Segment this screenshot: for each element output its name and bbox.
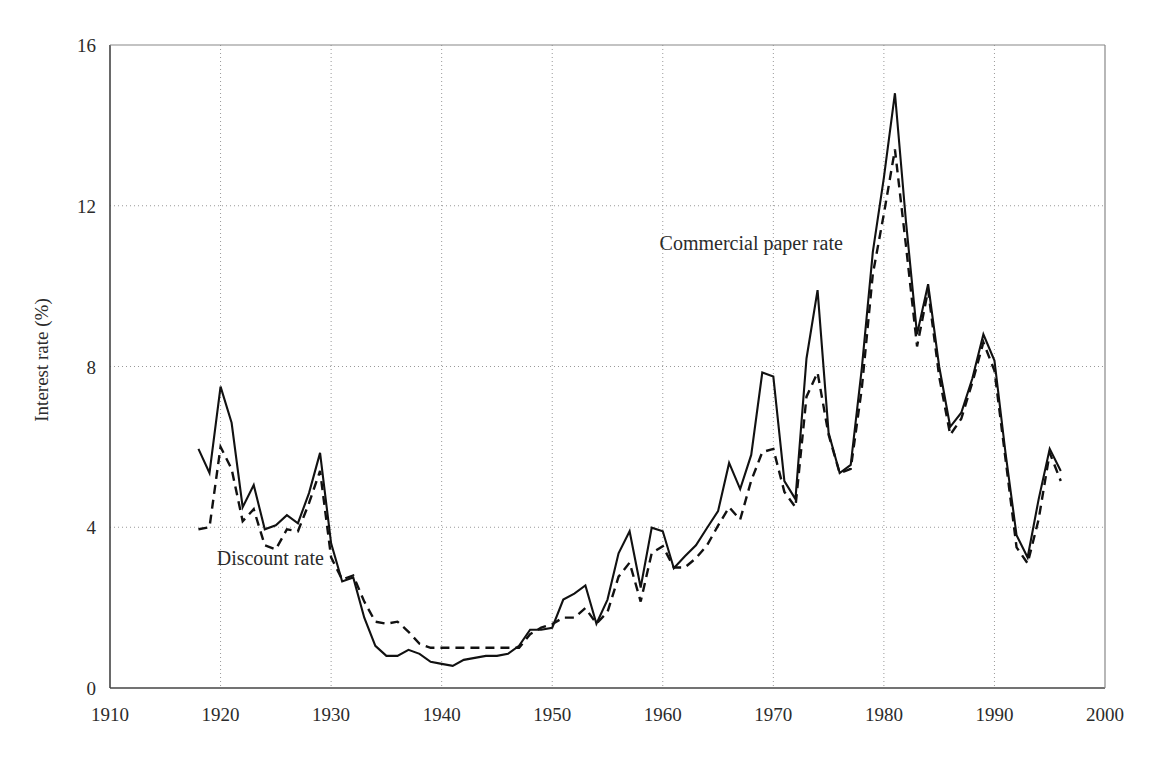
x-tick-label: 1960 — [644, 704, 682, 725]
series-line-discount-rate — [198, 149, 1060, 647]
y-tick-label: 8 — [87, 357, 97, 378]
gridlines — [110, 45, 1105, 688]
y-axis-title: Interest rate (%) — [31, 298, 53, 421]
x-tick-label: 1910 — [91, 704, 129, 725]
series-line-commercial-paper-rate — [198, 93, 1060, 666]
y-tick-label: 12 — [77, 196, 96, 217]
y-tick-label: 16 — [77, 35, 96, 56]
interest-rate-chart: 0481216 19101920193019401950196019701980… — [0, 0, 1172, 758]
y-tick-label: 4 — [87, 517, 97, 538]
x-tick-label: 1920 — [202, 704, 240, 725]
y-tick-label: 0 — [87, 678, 97, 699]
x-tick-label: 2000 — [1086, 704, 1124, 725]
x-tick-label: 1950 — [533, 704, 571, 725]
chart-canvas: 0481216 19101920193019401950196019701980… — [0, 0, 1172, 758]
data-series-layer — [198, 93, 1060, 666]
x-tick-label: 1970 — [754, 704, 792, 725]
x-axis-ticks: 1910192019301940195019601970198019902000 — [91, 704, 1124, 725]
annotation-label: Commercial paper rate — [660, 232, 843, 255]
annotation-label: Discount rate — [217, 547, 324, 569]
plot-frame — [110, 45, 1105, 688]
x-tick-label: 1940 — [423, 704, 461, 725]
x-tick-label: 1980 — [865, 704, 903, 725]
y-axis-ticks: 0481216 — [77, 35, 97, 699]
x-tick-label: 1990 — [975, 704, 1013, 725]
x-tick-label: 1930 — [312, 704, 350, 725]
series-annotations: Commercial paper rateDiscount rate — [217, 232, 843, 569]
